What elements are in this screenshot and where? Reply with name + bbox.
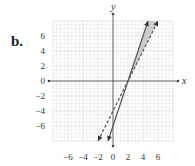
y-tick-label: −6 — [35, 121, 45, 131]
x-tick-label: 6 — [156, 152, 161, 162]
x-tick-label: −4 — [78, 152, 88, 162]
y-tick-label: −4 — [35, 106, 45, 116]
x-tick-label: 2 — [126, 152, 131, 162]
x-axis-label: x — [181, 75, 187, 86]
y-axis-top-arrow-icon — [112, 13, 115, 16]
y-tick-label: −2 — [35, 91, 45, 101]
y-tick-label: 2 — [41, 61, 46, 71]
y-tick-label: 4 — [41, 46, 46, 56]
y-tick-label: 0 — [41, 76, 46, 86]
y-axis-label: y — [110, 1, 116, 12]
line-arrow-icon — [107, 135, 112, 141]
x-tick-label: −6 — [63, 152, 73, 162]
x-axis-right-arrow-icon — [177, 80, 180, 83]
x-tick-label: −2 — [93, 152, 103, 162]
x-tick-label: 4 — [141, 152, 146, 162]
inequality-graph: xy−6−4−202466420−2−4−6 — [0, 0, 195, 166]
x-tick-label: 0 — [111, 152, 116, 162]
x-axis-left-arrow-icon — [48, 80, 51, 83]
y-tick-label: 6 — [41, 31, 46, 41]
y-axis-bottom-arrow-icon — [112, 145, 115, 148]
line-arrow-icon — [144, 21, 149, 27]
